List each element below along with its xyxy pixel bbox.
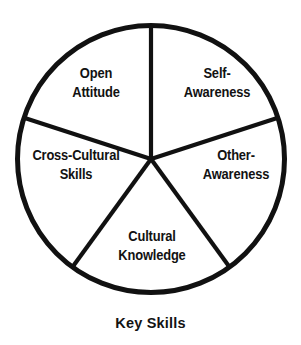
figure-caption: Key Skills [0,315,301,331]
pie-wheel-graphic [0,0,301,345]
key-skills-pie-diagram: Self- Awareness Open Attitude Other- Awa… [0,0,301,345]
